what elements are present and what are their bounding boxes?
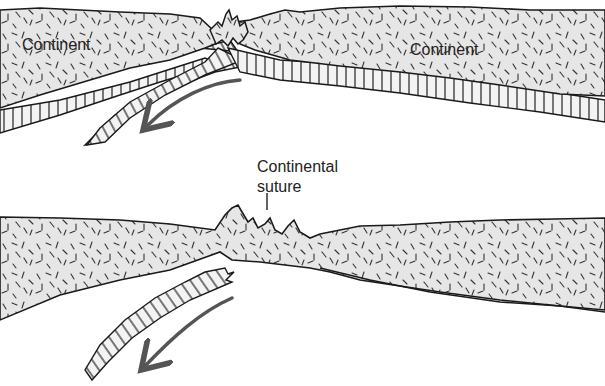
- label-suture-line1: Continental: [257, 158, 338, 175]
- diagram-canvas: Continent Continent Continental suture: [0, 0, 605, 386]
- label-left-continent: Continent: [22, 36, 91, 53]
- collision-zone-top: [210, 10, 248, 46]
- label-right-continent: Continent: [410, 41, 479, 58]
- broken-slab: [85, 268, 234, 380]
- bottom-panel: Continental suture: [0, 158, 605, 380]
- top-panel: Continent Continent: [0, 6, 605, 145]
- label-suture-line2: suture: [257, 178, 302, 195]
